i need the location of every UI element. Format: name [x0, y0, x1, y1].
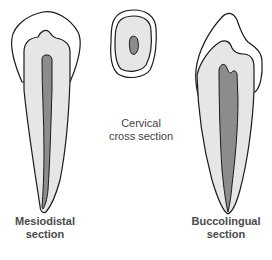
buccolingual-label-line2: section — [183, 228, 269, 241]
buccolingual-section-label: Buccolingual section — [183, 215, 269, 241]
mesiodistal-section-label: Mesiodistal section — [2, 215, 88, 241]
cervical-cross-section-drawing — [111, 10, 157, 77]
mesiodistal-label-line1: Mesiodistal — [2, 215, 88, 228]
buccolingual-label-line1: Buccolingual — [183, 215, 269, 228]
cervical-pulp — [129, 36, 138, 54]
mesiodistal-label-line2: section — [2, 228, 88, 241]
cervical-label-line2: cross section — [96, 130, 186, 143]
mesiodistal-section-drawing — [12, 12, 80, 213]
buccolingual-section-drawing — [196, 13, 263, 214]
cervical-cross-section-label: Cervical cross section — [96, 117, 186, 143]
cervical-label-line1: Cervical — [96, 117, 186, 130]
